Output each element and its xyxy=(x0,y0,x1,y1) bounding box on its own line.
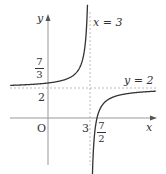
x-tick-3: 3 xyxy=(82,123,89,134)
y-tick-7-3: 7 3 xyxy=(35,57,44,80)
function-graph xyxy=(0,0,166,174)
y-axis-arrow-icon xyxy=(46,14,51,21)
y-tick-2: 2 xyxy=(38,92,45,103)
y-axis-label: y xyxy=(37,13,43,24)
x-axis-arrow-icon xyxy=(150,116,157,121)
x-axis-label: x xyxy=(146,122,152,133)
x-tick-7-2: 7 2 xyxy=(97,121,106,144)
horizontal-asymptote-label: y = 2 xyxy=(124,75,153,86)
origin-label: O xyxy=(37,123,46,134)
vertical-asymptote-label: x = 3 xyxy=(93,17,122,28)
